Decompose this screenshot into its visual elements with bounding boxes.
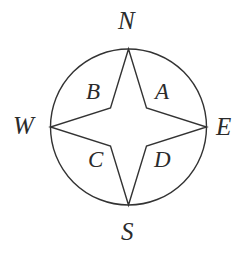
cardinal-label-south: S — [121, 219, 134, 244]
region-label-northwest: B — [86, 80, 100, 103]
region-label-southwest: C — [88, 148, 103, 171]
four-point-star — [51, 49, 207, 205]
compass-rose-diagram: N W E S A B C D — [0, 0, 251, 254]
cardinal-label-east: E — [216, 114, 231, 139]
cardinal-label-west: W — [13, 113, 34, 138]
region-label-southeast: D — [154, 148, 171, 171]
region-label-northeast: A — [155, 80, 169, 103]
compass-circle — [51, 49, 207, 205]
compass-rose-svg — [0, 0, 251, 254]
cardinal-label-north: N — [118, 8, 135, 33]
